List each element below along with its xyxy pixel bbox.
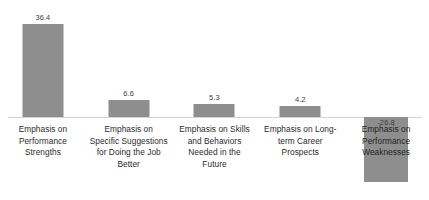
category-label-performance-weaknesses: Emphasis on Performance Weaknesses: [343, 124, 429, 159]
category-label-line: Future: [172, 159, 258, 171]
category-label-line: Emphasis on Long-: [257, 124, 343, 136]
category-label-line: Performance: [343, 136, 429, 148]
category-label-line: Emphasis on: [86, 124, 172, 136]
bar-group-performance-weaknesses: -26.8 Emphasis on Performance Weaknesses: [343, 0, 429, 200]
bar-group-performance-strengths: 36.4 Emphasis on Performance Strengths: [0, 0, 86, 200]
category-label-line: Specific Suggestions: [86, 136, 172, 148]
bar-group-long-term-career: 4.2 Emphasis on Long- term Career Prospe…: [257, 0, 343, 200]
bar-skills-and-behaviors[interactable]: [194, 104, 235, 118]
bar-chart: 36.4 Emphasis on Performance Strengths 6…: [0, 0, 429, 200]
category-label-line: for Doing the Job: [86, 147, 172, 159]
category-label-line: Weaknesses: [343, 147, 429, 159]
category-label-line: and Behaviors: [172, 136, 258, 148]
bar-performance-strengths[interactable]: [22, 24, 63, 117]
bar-group-skills-and-behaviors: 5.3 Emphasis on Skills and Behaviors Nee…: [172, 0, 258, 200]
bar-long-term-career[interactable]: [280, 106, 321, 117]
category-label-line: Emphasis on: [0, 124, 86, 136]
bar-group-specific-suggestions: 6.6 Emphasis on Specific Suggestions for…: [86, 0, 172, 200]
category-label-performance-strengths: Emphasis on Performance Strengths: [0, 124, 86, 159]
category-label-line: term Career: [257, 136, 343, 148]
category-label-skills-and-behaviors: Emphasis on Skills and Behaviors Needed …: [172, 124, 258, 170]
value-label-specific-suggestions: 6.6: [123, 89, 134, 98]
category-label-long-term-career: Emphasis on Long- term Career Prospects: [257, 124, 343, 159]
value-label-long-term-career: 4.2: [295, 95, 306, 104]
category-label-line: Prospects: [257, 147, 343, 159]
category-label-line: Emphasis on Skills: [172, 124, 258, 136]
category-label-line: Emphasis on: [343, 124, 429, 136]
category-label-line: Strengths: [0, 147, 86, 159]
value-label-skills-and-behaviors: 5.3: [209, 93, 220, 102]
category-label-line: Performance: [0, 136, 86, 148]
category-label-line: Needed in the: [172, 147, 258, 159]
value-label-performance-strengths: 36.4: [35, 13, 50, 22]
category-label-line: Better: [86, 159, 172, 171]
category-label-specific-suggestions: Emphasis on Specific Suggestions for Doi…: [86, 124, 172, 170]
bar-specific-suggestions[interactable]: [108, 100, 149, 117]
